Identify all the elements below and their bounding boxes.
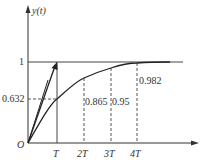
axes [28,8,196,143]
annotation-0865: 0.865 [85,97,108,107]
secant-line [28,80,48,143]
x-tick-3T: 3T [104,149,115,159]
tangent-arrow-icon [52,62,58,70]
origin-label: O [17,140,24,150]
y-tick-1: 1 [19,57,24,67]
y-axis-arrow-icon [26,5,31,13]
annotation-095: 0.95 [112,97,130,107]
x-tick-2T: 2T [77,149,88,159]
y-axis-label: y(t) [32,6,46,16]
annotation-0982: 0.982 [139,76,162,86]
y-tick-0632: 0.632 [2,94,25,104]
x-tick-T: T [53,149,59,159]
x-tick-4T: 4T [130,149,141,159]
step-response-chart [0,0,200,166]
x-axis-arrow-icon [191,141,199,146]
